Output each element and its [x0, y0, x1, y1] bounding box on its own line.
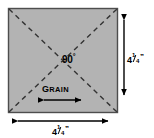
height-denominator: 4 [136, 58, 139, 64]
angle-value: 90 [62, 54, 73, 65]
diagram-canvas [0, 0, 154, 138]
degree-symbol: ° [73, 53, 76, 60]
height-dimension-label: 414” [127, 54, 144, 65]
width-dimension-label: 414” [52, 126, 69, 137]
height-fraction: 14 [132, 54, 140, 63]
angle-label: 90° [62, 55, 75, 65]
quilting-square-diagram: 90° GRAIN 414” 414” [0, 0, 154, 138]
width-denominator: 4 [61, 130, 64, 136]
width-fraction: 14 [57, 126, 65, 135]
grain-label: GRAIN [42, 85, 69, 94]
grain-label-rest: RAIN [49, 85, 69, 94]
